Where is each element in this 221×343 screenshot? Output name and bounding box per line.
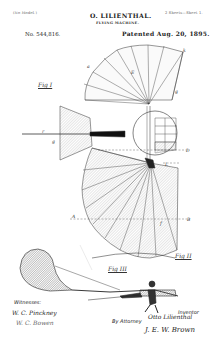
tail	[22, 106, 125, 160]
witnesses-label: Witnesses:	[14, 299, 41, 305]
fig3-label: Fig III	[108, 265, 127, 272]
fig2-label: Fig II	[175, 252, 192, 259]
pilot-figure	[88, 281, 176, 313]
lower-wing	[82, 148, 178, 258]
ref-D: D	[185, 148, 190, 153]
body-sphere	[133, 106, 177, 160]
ref-L: L	[164, 162, 168, 167]
ref-k: k	[183, 48, 186, 53]
ref-g: g	[175, 89, 178, 94]
ref-A: A	[71, 214, 76, 219]
fig1-label: Fig I	[38, 81, 52, 88]
attorney-signature: J. E. W. Brown	[145, 326, 195, 334]
ref-g2: g	[52, 139, 55, 144]
ref-a: a	[87, 64, 90, 69]
ref-r: r	[42, 129, 45, 134]
ref-E: E	[130, 70, 135, 75]
ref-B: B	[186, 217, 191, 222]
inventor-signature: Otto Lilienthal	[148, 313, 192, 320]
patent-drawing: k a E g r g D L A B f	[0, 0, 221, 343]
witness-signature-2: W. C. Bowen	[16, 319, 54, 326]
witness-signature-1: W. C. Pinckney	[12, 309, 57, 316]
by-attorney-label: By Attorney	[112, 318, 142, 324]
